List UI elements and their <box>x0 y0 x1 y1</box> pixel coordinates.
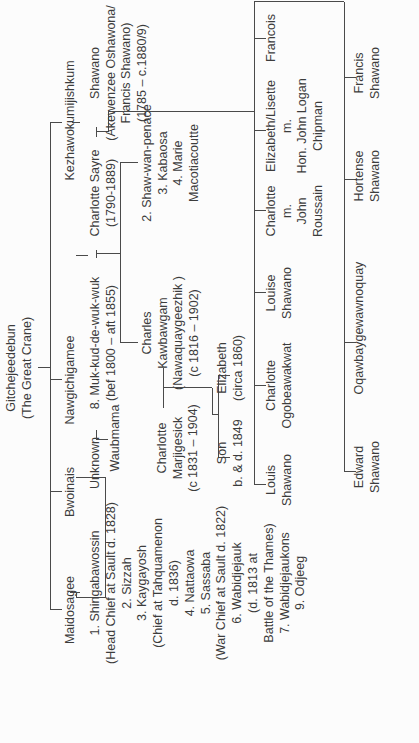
node-line: John <box>295 171 311 251</box>
node-line: 8. Muk-kud-de-wuk-wuk <box>88 258 104 428</box>
node-line: b. & d. 1849 <box>231 403 247 503</box>
node-line: Shawano <box>368 28 384 118</box>
node-line: Shawano <box>368 131 384 221</box>
connector <box>120 162 138 163</box>
node-line: Roussain <box>311 171 327 251</box>
node-line: Edward <box>352 427 368 507</box>
child-line: (Head Chief at Sault d. 1828) <box>104 493 120 673</box>
node-line: Elizabeth/Lisette <box>264 71 280 181</box>
connector <box>254 2 255 39</box>
connector <box>72 122 80 123</box>
node-line: Elizabeth <box>215 323 231 413</box>
connector <box>254 39 255 485</box>
connector <box>120 342 138 343</box>
node-line: 4. Marie <box>171 98 187 228</box>
node-line: Waubmama <box>108 383 124 493</box>
node-hortense-shawano: Hortense Shawano <box>352 131 383 221</box>
connector <box>38 367 50 368</box>
child-line: d. 1836) <box>167 493 183 673</box>
connector <box>72 592 74 593</box>
node-francis-shawano: Francis Shawano <box>352 28 383 118</box>
node-elizabeth: Elizabeth (circa 1860) <box>215 323 246 413</box>
node-line: Macotiacoutte <box>187 98 203 228</box>
node-line: Bwoinais <box>63 442 79 542</box>
connector <box>163 368 164 408</box>
connector <box>96 250 97 258</box>
node-oqawbaygewawnoquay: Oqawbaygewawnoquay <box>352 248 368 408</box>
node-louis-shawano: Louis Shawano <box>264 440 295 520</box>
node-maidosagee-children: 1. Shingabawossin (Head Chief at Sault d… <box>88 493 309 673</box>
connector <box>50 122 62 123</box>
node-line: 3. Kabaosa <box>156 98 172 228</box>
node-bwoinais: Bwoinais <box>63 442 79 542</box>
node-charlotte-roussain: Charlotte m. John Roussain <box>264 171 326 251</box>
node-line: Chipman <box>311 71 327 181</box>
node-line: (Akewenzee Oshawona/ <box>104 3 120 143</box>
node-line: 2. Shaw-wan-penace <box>140 98 156 228</box>
connector <box>212 388 213 415</box>
connector <box>344 2 345 472</box>
node-line: Charlotte <box>155 393 171 503</box>
node-louise-shawano: Louise Shawano <box>264 253 295 333</box>
node-line: m. <box>280 71 296 181</box>
child-line: 9. Odjeeg <box>293 493 309 673</box>
node-line: Gitchejeedebun <box>4 293 20 443</box>
node-francois: Francois <box>264 3 280 73</box>
node-sayre-siblings: 2. Shaw-wan-penace 3. Kabaosa 4. Marie M… <box>140 98 202 228</box>
node-charlotte-marjigesick: Charlotte Marjigesick (c 1831 – 1904) <box>155 393 202 503</box>
node-charlotte-ogobeawakwat: Charlotte Ogobeawakwat <box>264 333 295 438</box>
connector <box>50 609 62 610</box>
node-line: m. <box>280 171 296 251</box>
child-line: 2. Sizzah <box>120 493 136 673</box>
node-line: Ogobeawakwat <box>280 333 296 438</box>
child-line: (d. 1813 at <box>246 493 262 673</box>
child-line: 5. Sassaba <box>199 493 215 673</box>
node-line: Son <box>215 403 231 503</box>
node-line: Shawano <box>280 253 296 333</box>
diagram-viewport: Gitchejeedebun (The Great Crane) Maidosa… <box>0 0 419 743</box>
node-line: Shawano <box>88 3 104 143</box>
node-line: Louise <box>264 253 280 333</box>
connector <box>96 439 108 440</box>
connector <box>108 111 254 112</box>
node-line: Nawgichigamee <box>63 320 79 440</box>
node-line: Shawano <box>368 427 384 507</box>
child-line: (Chief at Tahquamenon <box>151 493 167 673</box>
node-maidosagee: Maidosagee <box>63 560 79 660</box>
connector <box>50 491 62 492</box>
node-charlotte-sayre: Charlotte Sayre (1790-1889) <box>88 138 119 248</box>
node-line: (c 1816 – 1902) <box>187 273 203 393</box>
node-line: Oqawbaygewawnoquay <box>352 248 368 408</box>
node-line: Maidosagee <box>63 560 79 660</box>
node-son: Son b. & d. 1849 <box>215 403 246 503</box>
node-line: (1790-1889) <box>104 138 120 248</box>
family-tree-canvas: Gitchejeedebun (The Great Crane) Maidosa… <box>0 0 419 743</box>
node-line: Kezhawokumijishkum <box>63 53 79 188</box>
connector <box>163 387 181 388</box>
node-line: Marjigesick <box>171 393 187 503</box>
node-line: (circa 1860) <box>231 323 247 413</box>
child-line: 4. Nattaowa <box>183 493 199 673</box>
node-gitchejeedebun: Gitchejeedebun (The Great Crane) <box>4 293 35 443</box>
node-line: Hon. John Logan <box>295 71 311 181</box>
node-line: Louis <box>264 440 280 520</box>
node-line: Charlotte <box>264 171 280 251</box>
node-nawgichigamee: Nawgichigamee <box>63 320 79 440</box>
node-edward-shawano: Edward Shawano <box>352 427 383 507</box>
node-line: Charlotte <box>264 333 280 438</box>
node-line: Charlotte Sayre <box>88 138 104 248</box>
node-elizabeth-lisette: Elizabeth/Lisette m. Hon. John Logan Chi… <box>264 71 326 181</box>
node-line: Francis Shawano) <box>119 3 135 143</box>
connector <box>96 253 120 254</box>
node-line: Shawano <box>280 440 296 520</box>
child-line: 1. Shingabawossin <box>88 493 104 673</box>
child-line: 6. Wabidjejauk <box>230 493 246 673</box>
node-line: Francois <box>264 3 280 73</box>
node-kezhawokumijishkum: Kezhawokumijishkum <box>63 53 79 188</box>
node-line: (Nawaquaygeezhik ) <box>171 273 187 393</box>
child-line: 7. Wabidjejaukons <box>278 493 294 673</box>
connector <box>50 123 51 610</box>
node-waubmama: Waubmama <box>108 383 124 493</box>
connector <box>76 255 88 256</box>
node-line: (c 1831 – 1904) <box>186 393 202 503</box>
